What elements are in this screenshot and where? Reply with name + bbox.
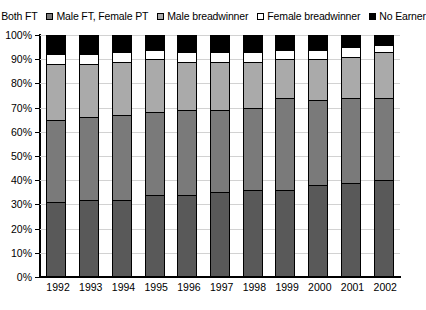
bar-segment[interactable] [374, 180, 394, 277]
bar-segment[interactable] [308, 35, 328, 50]
bar-segment[interactable] [112, 35, 132, 52]
bar-segment[interactable] [275, 35, 295, 50]
bar-column[interactable] [275, 35, 295, 277]
bar-segment[interactable] [79, 64, 99, 117]
bar-segment[interactable] [112, 200, 132, 277]
square-swatch-icon [46, 13, 53, 20]
x-tick-label: 1997 [210, 281, 230, 297]
bar-column[interactable] [112, 35, 132, 277]
bar-segment[interactable] [308, 59, 328, 100]
bar-segment[interactable] [210, 35, 230, 52]
y-tick-label: 80% [11, 78, 32, 89]
bar-segment[interactable] [177, 52, 197, 62]
x-tick-label: 1994 [112, 281, 132, 297]
bar-segment[interactable] [177, 62, 197, 110]
bar-segment[interactable] [374, 45, 394, 52]
bar-segment[interactable] [79, 200, 99, 277]
bar-segment[interactable] [341, 35, 361, 47]
x-tick-label: 1992 [46, 281, 66, 297]
bar-column[interactable] [210, 35, 230, 277]
bar-segment[interactable] [308, 100, 328, 185]
plot-area: 0%10%20%30%40%50%60%70%80%90%100% [40, 35, 400, 277]
bar-column[interactable] [341, 35, 361, 277]
bar-column[interactable] [243, 35, 263, 277]
x-axis-labels: 1992199319941995199619971998199920002001… [40, 281, 400, 297]
chart-legend: Both FTMale FT, Female PTMale breadwinne… [0, 8, 417, 24]
bar-segment[interactable] [145, 50, 165, 60]
bar-column[interactable] [145, 35, 165, 277]
x-tick-label: 1995 [145, 281, 165, 297]
bar-segment[interactable] [374, 98, 394, 180]
bar-segment[interactable] [112, 62, 132, 115]
bar-segment[interactable] [210, 110, 230, 192]
bar-segment[interactable] [308, 50, 328, 60]
y-tick-label: 0% [17, 272, 32, 283]
bar-segment[interactable] [79, 117, 99, 199]
bar-segment[interactable] [210, 62, 230, 110]
bar-segment[interactable] [243, 52, 263, 62]
bar-segment[interactable] [177, 110, 197, 195]
bar-column[interactable] [177, 35, 197, 277]
bar-segment[interactable] [210, 52, 230, 62]
bar-segment[interactable] [243, 190, 263, 277]
x-tick-label: 2001 [341, 281, 361, 297]
legend-item-label: Both FT [1, 11, 37, 22]
bar-column[interactable] [374, 35, 394, 277]
bar-column[interactable] [46, 35, 66, 277]
bar-segment[interactable] [243, 62, 263, 108]
legend-item-label: No Earner [379, 11, 426, 22]
y-tick-mark [35, 277, 40, 278]
legend-item: Male FT, Female PT [46, 11, 148, 22]
y-tick-label: 10% [11, 247, 32, 258]
bar-segment[interactable] [112, 52, 132, 62]
bar-segment[interactable] [275, 98, 295, 190]
bar-segment[interactable] [341, 98, 361, 183]
y-tick-label: 70% [11, 102, 32, 113]
bar-segment[interactable] [243, 108, 263, 190]
bar-segment[interactable] [46, 64, 66, 120]
y-tick-label: 20% [11, 223, 32, 234]
square-swatch-icon [157, 13, 164, 20]
legend-item-label: Male breadwinner [167, 11, 248, 22]
bar-segment[interactable] [374, 52, 394, 98]
legend-item: Male breadwinner [157, 11, 248, 22]
bar-segment[interactable] [145, 35, 165, 50]
bar-segment[interactable] [374, 35, 394, 45]
bar-segment[interactable] [46, 54, 66, 64]
bar-segment[interactable] [145, 112, 165, 194]
bar-segment[interactable] [46, 120, 66, 202]
y-tick-label: 100% [5, 30, 32, 41]
x-tick-label: 2002 [374, 281, 394, 297]
square-swatch-icon [369, 13, 376, 20]
bar-segment[interactable] [177, 195, 197, 277]
y-tick-label: 40% [11, 175, 32, 186]
bar-group [40, 35, 400, 277]
bar-segment[interactable] [46, 35, 66, 54]
bar-segment[interactable] [210, 192, 230, 277]
bar-segment[interactable] [341, 183, 361, 277]
x-tick-label: 1998 [243, 281, 263, 297]
bar-segment[interactable] [112, 115, 132, 200]
y-tick-label: 30% [11, 199, 32, 210]
bar-column[interactable] [79, 35, 99, 277]
legend-item: No Earner [369, 11, 426, 22]
bar-segment[interactable] [341, 47, 361, 57]
bar-segment[interactable] [243, 35, 263, 52]
bar-segment[interactable] [79, 35, 99, 54]
x-tick-label: 1993 [79, 281, 99, 297]
bar-segment[interactable] [275, 190, 295, 277]
bar-segment[interactable] [275, 59, 295, 98]
bar-segment[interactable] [308, 185, 328, 277]
bar-segment[interactable] [177, 35, 197, 52]
bar-segment[interactable] [79, 54, 99, 64]
y-tick-label: 90% [11, 54, 32, 65]
bar-segment[interactable] [341, 57, 361, 98]
bar-segment[interactable] [145, 59, 165, 112]
bar-segment[interactable] [275, 50, 295, 60]
bar-segment[interactable] [145, 195, 165, 277]
bar-segment[interactable] [46, 202, 66, 277]
legend-item-label: Female breadwinner [267, 11, 360, 22]
bar-column[interactable] [308, 35, 328, 277]
legend-item: Both FT [0, 11, 37, 22]
